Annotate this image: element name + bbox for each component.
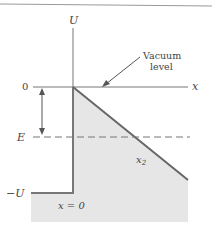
arrowhead-up-icon <box>39 88 45 95</box>
neg-u-label: −U <box>6 187 25 200</box>
x-zero-label: x = 0 <box>58 200 85 211</box>
x2-label-sub: 2 <box>141 159 147 167</box>
vacuum-label-line1: Vacuum <box>142 50 181 61</box>
potential-energy-diagram: U x 0 E −U Vacuum level x2 x = 0 <box>0 0 212 228</box>
arrowhead-vacuum-icon <box>102 80 110 87</box>
shaded-region <box>31 87 188 222</box>
vacuum-pointer-line <box>106 57 140 84</box>
x-axis-label: x <box>192 80 199 93</box>
energy-level-label: E <box>16 131 25 144</box>
vacuum-label-line2: level <box>150 61 173 72</box>
zero-level-label: 0 <box>22 81 28 92</box>
potential-well-edge <box>31 87 73 193</box>
arrowhead-down-icon <box>39 128 45 135</box>
top-border <box>0 4 212 6</box>
u-axis-label: U <box>69 14 79 27</box>
